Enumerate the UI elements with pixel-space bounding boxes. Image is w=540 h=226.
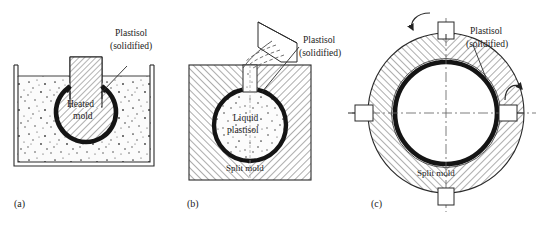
label-liquid-plastisol-line2: plastisol (227, 125, 259, 136)
panel-label-b: (b) (187, 198, 199, 209)
label-plastisol-a-line2: (solidified) (110, 41, 152, 52)
panel-label-a: (a) (14, 198, 25, 209)
label-split-mold-b: Split mold (226, 163, 264, 173)
label-plastisol-c-line1: Plastisol (470, 26, 502, 37)
label-heated-mold-line1: Heated (67, 99, 94, 110)
label-plastisol-a-line1: Plastisol (115, 28, 147, 39)
label-plastisol-b-line1: Plastisol (303, 35, 335, 46)
label-liquid-plastisol-line1: Liquid (233, 113, 258, 124)
label-plastisol-b-line2: (solidified) (299, 48, 341, 59)
bottom-trunnion (438, 188, 454, 205)
right-trunnion (499, 105, 517, 121)
label-heated-mold-line2: mold (73, 111, 93, 122)
rotation-arrow-vertical-axis-c (412, 13, 430, 30)
label-plastisol-c-line2: (solidified) (466, 39, 508, 50)
left-shaft-stub (355, 105, 373, 121)
panel-label-c: (c) (371, 198, 382, 209)
figure-root: Plastisol (solidified) Heated mold (a) P… (0, 0, 540, 226)
label-split-mold-c: Split mold (417, 168, 455, 178)
panel-b (189, 22, 311, 180)
